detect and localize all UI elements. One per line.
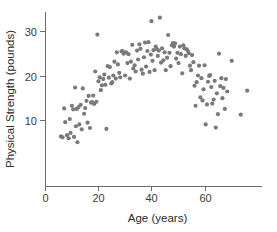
data-point [73,85,77,89]
x-tick-label-60: 60 [199,192,211,204]
data-point [117,71,121,75]
y-axis-title: Physical Strength (pounds) [4,30,16,168]
data-point [68,131,72,135]
data-point [203,63,207,67]
data-point [87,94,91,98]
data-point [88,126,92,130]
data-point [204,122,208,126]
y-tick-label-30: 30 [25,26,37,38]
data-point [152,68,156,72]
data-point [160,46,164,50]
data-point [245,89,249,93]
data-point [60,135,64,139]
data-point [190,53,194,57]
x-tick-label-40: 40 [145,192,157,204]
data-point [147,70,151,74]
data-point [196,73,200,77]
data-point [123,73,127,77]
data-point [146,40,150,44]
data-point [103,83,107,87]
data-point [164,68,168,72]
data-point [75,140,79,144]
physical-strength-vs-age-chart: 1020300204060 Age (years)Physical Streng… [0,0,277,232]
data-point [212,97,216,101]
data-point [219,76,223,80]
data-point [217,52,221,56]
data-point [149,52,153,56]
data-point [223,107,227,111]
data-point [95,32,99,36]
data-point [128,77,132,81]
data-point [136,57,140,61]
y-tick-label-10: 10 [25,115,37,127]
data-point [163,50,167,54]
data-point [130,43,134,47]
data-point [138,47,142,51]
data-point [167,51,171,55]
data-point [193,104,197,108]
data-point [118,75,122,79]
data-point [114,77,118,81]
data-point [213,79,217,83]
data-point [199,76,203,80]
data-point [168,64,172,68]
data-point [215,91,219,95]
data-point [200,98,204,102]
data-point [107,76,111,80]
data-point [216,112,220,116]
data-point [156,54,160,58]
data-point [72,135,76,139]
data-point [161,58,165,62]
data-point [79,103,83,107]
data-point [189,68,193,72]
data-point [179,52,183,56]
data-point [150,59,154,63]
data-point [174,56,178,60]
data-point [208,73,212,77]
data-point [145,49,149,53]
data-point [184,54,188,58]
data-point [191,60,195,64]
x-tick-label-20: 20 [92,192,104,204]
data-point [77,122,81,126]
data-point [93,69,97,73]
data-point [129,60,133,64]
data-point [180,71,184,75]
data-point [225,89,229,93]
data-point [230,59,234,63]
data-point [115,50,119,54]
data-point [81,86,85,90]
data-point [209,85,213,89]
data-point [188,64,192,68]
data-point [126,52,130,56]
data-point [214,125,218,129]
data-point [63,120,67,124]
data-point [67,136,71,140]
data-point [112,60,116,64]
data-point [141,72,145,76]
data-points-group [59,16,249,145]
x-tick-label-0: 0 [42,192,48,204]
data-point [62,106,66,110]
data-point [137,42,141,46]
data-point [110,80,114,84]
data-point [144,65,148,69]
data-point [116,62,120,66]
data-point [206,80,210,84]
x-axis-title: Age (years) [128,212,188,224]
data-point [158,16,162,20]
data-point [91,93,95,97]
data-point [99,88,103,92]
data-point [83,106,87,110]
data-point [133,63,137,67]
data-point [149,19,153,23]
data-point [85,121,89,125]
axes-group [46,12,263,187]
scatter-plot-figure: 1020300204060 Age (years)Physical Streng… [0,0,277,232]
data-point [210,101,214,105]
data-point [195,80,199,84]
data-point [220,96,224,100]
data-point [176,61,180,65]
data-point [101,77,105,81]
data-point [82,112,86,116]
